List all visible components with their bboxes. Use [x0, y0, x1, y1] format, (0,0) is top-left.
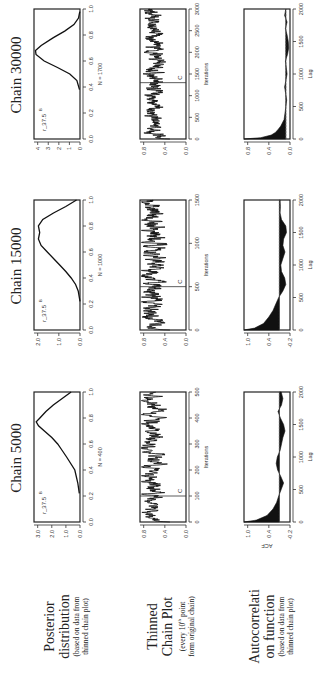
svg-text:0: 0: [298, 520, 304, 523]
svg-text:1.0: 1.0: [245, 338, 251, 346]
svg-text:0.0: 0.0: [183, 147, 189, 155]
svg-text:3000: 3000: [194, 3, 200, 15]
svg-text:1000: 1000: [194, 237, 200, 249]
svg-text:1000: 1000: [298, 259, 304, 271]
svg-text:0.4: 0.4: [162, 147, 168, 155]
svg-text:0: 0: [194, 137, 200, 140]
svg-text:-0.2: -0.2: [287, 530, 293, 539]
svg-text:2.0: 2.0: [35, 338, 41, 346]
row-label-thinned-chain: Thinned Chain Plot (every 10th point for…: [145, 579, 196, 674]
svg-text:0.8: 0.8: [88, 222, 94, 230]
svg-text:1.0: 1.0: [88, 196, 94, 204]
svg-text:0.8: 0.8: [141, 530, 147, 538]
row-label-autocorrelation: Autocorrelati on function (based on data…: [247, 579, 295, 674]
svg-text:2000: 2000: [298, 386, 304, 398]
svg-text:500: 500: [194, 282, 200, 291]
svg-text:0.6: 0.6: [88, 440, 94, 448]
svg-text:1500: 1500: [298, 35, 304, 47]
svg-text:1500: 1500: [194, 194, 200, 206]
svg-text:B: B: [38, 108, 43, 111]
trace-plot-chain-15000: 0500100015000.00.40.8IterationsC: [138, 190, 224, 360]
svg-text:1000: 1000: [298, 451, 304, 463]
svg-text:1500: 1500: [298, 226, 304, 238]
svg-text:0.2: 0.2: [88, 109, 94, 117]
svg-text:2000: 2000: [298, 194, 304, 206]
svg-text:Lag: Lag: [307, 260, 313, 269]
svg-text:2000: 2000: [298, 3, 304, 15]
svg-text:2: 2: [56, 147, 62, 150]
svg-text:0.0: 0.0: [77, 530, 83, 538]
svg-text:2.0: 2.0: [49, 530, 55, 538]
svg-text:0: 0: [194, 520, 200, 523]
column-title-chain-15000: Chain 15000: [8, 166, 25, 366]
svg-text:500: 500: [298, 293, 304, 302]
svg-text:200: 200: [194, 465, 200, 474]
svg-text:N = 1700: N = 1700: [97, 63, 103, 85]
svg-text:500: 500: [194, 387, 200, 396]
svg-text:N = 400: N = 400: [97, 447, 103, 466]
svg-text:0.4: 0.4: [162, 338, 168, 346]
svg-text:3.0: 3.0: [35, 530, 41, 538]
svg-text:0.4: 0.4: [266, 530, 272, 538]
trace-plot-chain-30000: 0500100015002000250030000.00.40.8Iterati…: [138, 0, 224, 169]
svg-text:0.0: 0.0: [287, 147, 293, 155]
svg-text:1.0: 1.0: [88, 388, 94, 396]
svg-text:C: C: [177, 75, 183, 80]
svg-text:4: 4: [35, 147, 41, 150]
svg-text:-0.2: -0.2: [287, 338, 293, 347]
svg-text:Iterations: Iterations: [203, 445, 209, 468]
svg-text:Lag: Lag: [307, 69, 313, 78]
svg-text:0.4: 0.4: [88, 83, 94, 91]
svg-text:1.0: 1.0: [245, 530, 251, 538]
svg-text:2000: 2000: [194, 46, 200, 58]
posterior-plot-chain-15000: 0.00.20.40.60.81.00.01.02.0N = 1000r_37.…: [32, 190, 118, 360]
acf-plot-chain-30000: 05001000150020000.00.40.8Lag: [242, 0, 328, 169]
svg-text:B: B: [38, 491, 43, 494]
svg-text:Iterations: Iterations: [203, 253, 209, 276]
svg-text:100: 100: [194, 491, 200, 500]
svg-text:B: B: [38, 299, 43, 302]
svg-text:0.0: 0.0: [183, 338, 189, 346]
svg-text:0.6: 0.6: [88, 248, 94, 256]
svg-text:0.4: 0.4: [162, 530, 168, 538]
posterior-plot-chain-5000: 0.00.20.40.60.81.00.01.02.03.0N = 400r_3…: [32, 382, 118, 552]
svg-text:C: C: [177, 279, 183, 284]
svg-text:0.2: 0.2: [88, 492, 94, 500]
svg-text:500: 500: [298, 102, 304, 111]
svg-text:Iterations: Iterations: [203, 62, 209, 85]
svg-text:500: 500: [298, 485, 304, 494]
svg-text:0.8: 0.8: [245, 147, 251, 155]
svg-text:0: 0: [194, 328, 200, 331]
svg-text:r_37.5: r_37.5: [41, 496, 47, 514]
figure-stage: Chain 5000 Chain 15000 Chain 30000 Poste…: [0, 0, 330, 680]
svg-text:0: 0: [298, 137, 304, 140]
svg-text:1.0: 1.0: [63, 530, 69, 538]
svg-text:300: 300: [194, 439, 200, 448]
svg-text:0.4: 0.4: [88, 466, 94, 474]
svg-text:ACF: ACF: [261, 543, 273, 549]
svg-text:r_37.5: r_37.5: [41, 113, 47, 131]
acf-plot-chain-5000: 0500100015002000-0.20.41.0LagACF: [242, 382, 328, 552]
svg-text:3: 3: [45, 147, 51, 150]
column-title-chain-5000: Chain 5000: [8, 358, 25, 558]
svg-text:0.8: 0.8: [88, 31, 94, 39]
svg-text:0.8: 0.8: [141, 147, 147, 155]
svg-text:0: 0: [298, 328, 304, 331]
column-title-chain-30000: Chain 30000: [8, 0, 25, 175]
svg-text:0: 0: [77, 147, 83, 150]
posterior-plot-chain-30000: 0.00.20.40.60.81.001234N = 1700r_37.5B: [32, 0, 118, 169]
svg-text:0.0: 0.0: [77, 338, 83, 346]
svg-text:N = 1000: N = 1000: [97, 254, 103, 276]
svg-text:0.4: 0.4: [266, 147, 272, 155]
svg-text:0.8: 0.8: [88, 414, 94, 422]
row-label-posterior: Posterior distribution (based on data fr…: [42, 579, 90, 674]
svg-text:1000: 1000: [194, 90, 200, 102]
svg-text:2500: 2500: [194, 25, 200, 37]
svg-text:Lag: Lag: [307, 452, 313, 461]
svg-text:0.2: 0.2: [88, 300, 94, 308]
svg-text:1500: 1500: [194, 68, 200, 80]
svg-text:0.4: 0.4: [88, 274, 94, 282]
svg-text:1500: 1500: [298, 418, 304, 430]
svg-text:1.0: 1.0: [56, 338, 62, 346]
svg-text:0.0: 0.0: [88, 135, 94, 143]
